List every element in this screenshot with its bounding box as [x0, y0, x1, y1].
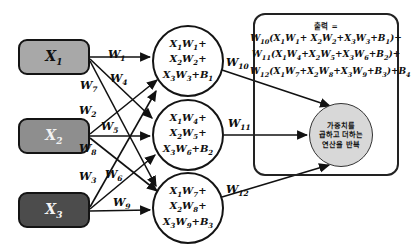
hidden-node-2-line-1: X1W4+	[169, 112, 206, 128]
output-formula: W10(X1W1+ X2W2+X3W3+B1)+W11(X1W4+X2W5+X3…	[250, 32, 402, 81]
hidden-node-3: X1W7+X2W8+X3W9+B3	[152, 172, 224, 244]
hidden-node-2-line-3: X3W6+B2	[163, 143, 213, 159]
input-node-x3: X3	[18, 192, 90, 228]
hidden-node-2: X1W4+X2W5+X3W6+B2	[152, 99, 224, 171]
weight-w4: W4	[110, 72, 128, 87]
output-operation-circle: 가중치를곱하고 더하는연산을 반복	[309, 103, 373, 167]
hidden-node-1-line-2: X2W2+	[169, 53, 206, 69]
formula-line-3: W12(X1W7+X2W8+X3W9+B3)+B4	[250, 65, 402, 81]
hidden-node-3-line-1: X1W7+	[169, 185, 206, 201]
hidden-node-2-line-2: X2W5+	[169, 127, 206, 143]
weight-w7: W7	[80, 79, 98, 94]
input-node-x2-label: X2	[45, 127, 63, 146]
hidden-node-1-line-3: X3W3+B1	[163, 69, 213, 85]
weight-w8: W8	[79, 142, 97, 157]
output-panel-header: 출력 =	[253, 20, 399, 31]
weight-w10: W10	[226, 56, 249, 71]
formula-line-1: W10(X1W1+ X2W2+X3W3+B1)+	[250, 32, 402, 48]
input-node-x1: X1	[18, 39, 90, 75]
weight-w5: W5	[101, 120, 119, 135]
weight-w2: W2	[79, 104, 97, 119]
hidden-node-3-line-2: X2W8+	[169, 200, 206, 216]
output-circle-line-3: 연산을 반복	[322, 140, 360, 150]
output-circle-line-2: 곱하고 더하는	[319, 130, 364, 140]
weight-w1: W1	[108, 48, 126, 63]
input-node-x3-label: X3	[45, 201, 63, 220]
weight-w3: W3	[79, 170, 97, 185]
weight-w9: W9	[113, 196, 131, 211]
weight-w11: W11	[228, 117, 251, 132]
weight-w12: W12	[226, 183, 249, 198]
edge-x2-n3	[90, 138, 157, 191]
output-circle-line-1: 가중치를	[327, 121, 355, 131]
diagram-canvas: X1 X2 X3 X1W1+X2W2+X3W3+B1 X1W4+X2W5+X3W…	[0, 0, 416, 249]
hidden-node-1: X1W1+X2W2+X3W3+B1	[152, 25, 224, 97]
hidden-node-1-line-1: X1W1+	[169, 38, 206, 54]
weight-w6: W6	[105, 168, 123, 183]
formula-line-2: W11(X1W4+X2W5+X3W6+B2)+	[250, 48, 402, 64]
hidden-node-3-line-3: X3W9+B3	[163, 216, 213, 232]
input-node-x1-label: X1	[45, 48, 63, 67]
